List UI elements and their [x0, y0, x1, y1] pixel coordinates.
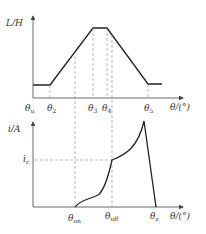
tick-theta-4: θ4	[102, 103, 111, 114]
tick-theta-u: θu	[25, 103, 34, 114]
inductance-current-diagram: L/H θu θ2 θ3 θ4 θ5 θ/(°) i/A ic θon θoff…	[0, 0, 206, 234]
upper-y-label: L/H	[5, 18, 23, 28]
ic-label: ic	[23, 154, 30, 165]
current-curve	[75, 121, 156, 207]
upper-x-label: θ/(°)	[170, 102, 190, 112]
tick-theta-on: θon	[68, 213, 81, 224]
tick-theta-3: θ3	[88, 103, 97, 114]
upper-plot: L/H θu θ2 θ3 θ4 θ5 θ/(°)	[5, 16, 190, 114]
lower-x-label: θ/(°)	[170, 211, 190, 221]
tick-theta-2: θ2	[47, 103, 56, 114]
inductance-curve	[33, 28, 162, 85]
lower-y-label: i/A	[8, 124, 21, 134]
lower-plot: i/A ic θon θoff θz θ/(°)	[8, 121, 190, 224]
tick-theta-z: θz	[150, 211, 159, 222]
tick-theta-off: θoff	[105, 211, 119, 222]
tick-theta-5: θ5	[144, 103, 153, 114]
